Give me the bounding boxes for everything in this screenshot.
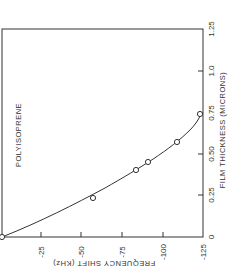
plot-frame — [2, 29, 203, 237]
svg-text:-125: -125 — [199, 243, 208, 260]
svg-text:-75: -75 — [118, 246, 127, 258]
data-point — [145, 159, 150, 164]
data-point — [90, 195, 95, 200]
x-axis-ticks — [198, 71, 203, 195]
data-point — [0, 234, 5, 239]
svg-text:1.25: 1.25 — [207, 21, 216, 37]
data-point — [174, 139, 179, 144]
svg-text:1.0: 1.0 — [207, 65, 216, 77]
svg-text:0: 0 — [207, 234, 216, 239]
svg-text:0.75: 0.75 — [207, 105, 216, 121]
y-axis-ticks — [41, 232, 163, 237]
data-points — [0, 111, 203, 239]
svg-text:-50: -50 — [77, 246, 86, 258]
y-axis-tick-labels: -25 -50 -75 -100 -125 — [37, 243, 208, 260]
x-axis-tick-labels: 0 0.25 0.50 0.75 1.0 1.25 — [207, 21, 216, 240]
annotation-polyisoprene: POLYISOPRENE — [14, 103, 23, 167]
svg-text:0.50: 0.50 — [207, 146, 216, 162]
fit-curve — [2, 114, 201, 237]
svg-text:0.25: 0.25 — [207, 187, 216, 203]
x-axis-title: FILM THICKNESS (MICRONS) — [218, 72, 227, 188]
svg-text:-25: -25 — [37, 246, 46, 258]
svg-text:-100: -100 — [159, 243, 168, 260]
data-point — [133, 167, 138, 172]
data-point — [197, 111, 202, 116]
chart: -25 -50 -75 -100 -125 0 0.25 0.50 0.75 1… — [0, 0, 231, 269]
y-axis-title: FREQUENCY SHIFT (KHz) — [53, 259, 155, 268]
